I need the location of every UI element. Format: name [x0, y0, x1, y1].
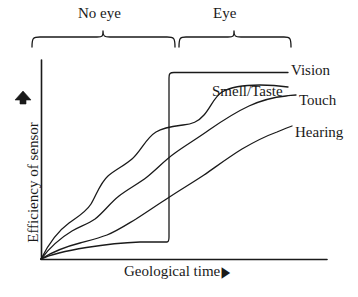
- series-label-vision: Vision: [291, 63, 330, 78]
- curve-smell-taste: [41, 85, 288, 259]
- bracket-label-eye: Eye: [213, 6, 236, 21]
- bracket-label-no-eye: No eye: [78, 6, 121, 21]
- curve-hearing: [41, 126, 292, 259]
- brace-eye: [179, 31, 291, 47]
- curve-vision: [41, 73, 288, 260]
- brace-no-eye: [32, 31, 175, 47]
- series-label-touch: Touch: [299, 93, 336, 108]
- series-label-smell-taste: Smell/Taste: [212, 84, 283, 99]
- x-axis-label-text: Geological time: [124, 263, 220, 279]
- x-axis-label: Geological time▶: [124, 264, 232, 279]
- series-label-hearing: Hearing: [295, 125, 343, 140]
- x-axis-arrow-icon: ▶: [222, 265, 231, 280]
- y-axis-label: Efficiency of sensor: [26, 103, 41, 263]
- figure-svg: [0, 0, 358, 297]
- figure-container: No eye Eye Vision Smell/Taste Touch Hear…: [0, 0, 358, 297]
